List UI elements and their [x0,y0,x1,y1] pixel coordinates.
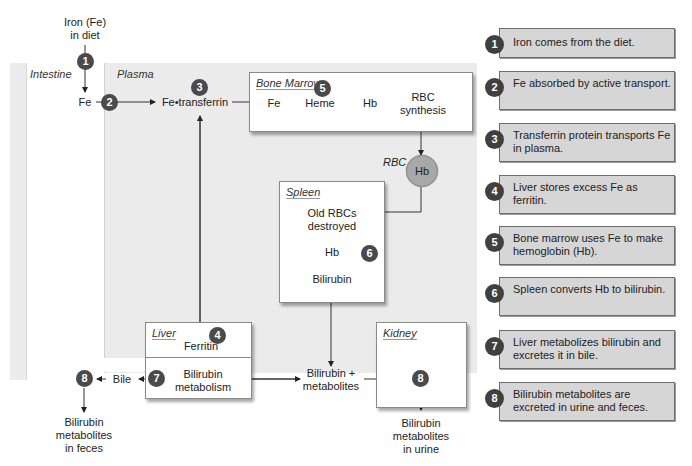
liver-ferritin: Ferritin [171,340,231,353]
legend-item-3: 3 Transferrin protein transports Fe in p… [499,123,675,163]
liver-divider [146,357,251,358]
spleen-step-old-rbcs: Old RBCs destroyed [290,207,374,233]
spleen-step-hb: Hb [322,246,342,259]
rbc-hb-label: Hb [407,165,437,178]
legend-text-6: Spleen converts Hb to bilirubin. [513,283,671,296]
legend-text-2: Fe absorbed by active transport. [513,77,671,90]
legend-badge-3: 3 [485,130,504,149]
legend-item-4: 4 Liver stores excess Fe as ferritin. [499,175,675,215]
liver-title: Liver [152,327,176,340]
rbc-label: RBC [383,156,406,168]
step-badge-8-feces: 8 [76,370,93,387]
kidney-title: Kidney [383,327,417,340]
fe-transferrin-node: Fe•transferrin [157,96,233,109]
rbc-hb-circle: Hb [406,155,438,187]
legend-item-6: 6 Spleen converts Hb to bilirubin. [499,277,675,317]
spleen-box: Spleen Old RBCs destroyed Hb Bilirubin 6 [279,181,385,303]
spleen-title: Spleen [286,186,320,199]
step-badge-5: 5 [314,80,331,97]
bone-marrow-step-heme: Heme [300,97,340,110]
legend-item-2: 2 Fe absorbed by active transport. [499,71,675,111]
bone-marrow-step-rbc-synthesis: RBC synthesis [397,91,449,117]
kidney-box: Kidney [376,322,467,408]
legend-badge-1: 1 [485,35,504,54]
legend-badge-4: 4 [485,182,504,201]
legend-item-7: 7 Liver metabolizes bilirubin and excret… [499,330,675,370]
legend-badge-8: 8 [485,389,504,408]
legend-badge-5: 5 [485,233,504,252]
legend-item-8: 8 Bilirubin metabolites are excreted in … [499,382,675,422]
legend-text-5: Bone marrow uses Fe to make hemoglobin (… [513,232,671,258]
fe-intestine-node: Fe [75,96,95,109]
legend-item-5: 5 Bone marrow uses Fe to make hemoglobin… [499,226,675,266]
bone-marrow-box: Bone Marrow 5 Fe Heme Hb RBC synthesis [249,72,473,132]
liver-bilirubin-metabolism: Bilirubin metabolism [168,368,238,394]
legend-text-1: Iron comes from the diet. [513,36,671,49]
legend-text-3: Transferrin protein transports Fe in pla… [513,129,671,155]
bilirubin-metabolites-node: Bilirubin + metabolites [298,367,364,393]
step-badge-2: 2 [101,94,118,111]
legend-text-4: Liver stores excess Fe as ferritin. [513,181,671,207]
step-badge-1: 1 [77,53,94,70]
step-badge-3: 3 [191,79,208,96]
legend-badge-6: 6 [485,284,504,303]
bone-marrow-step-fe: Fe [267,97,281,110]
step-badge-7: 7 [148,370,165,387]
step-badge-8-kidney: 8 [412,370,429,387]
urine-output-label: Bilirubin metabolites in urine [386,417,456,456]
step-badge-6: 6 [361,245,378,262]
bone-marrow-title: Bone Marrow [256,77,321,90]
bile-node: Bile [108,373,136,386]
legend-badge-2: 2 [485,78,504,97]
legend-text-7: Liver metabolizes bilirubin and excretes… [513,336,671,362]
legend-item-1: 1 Iron comes from the diet. [499,28,675,58]
feces-output-label: Bilirubin metabolites in feces [50,416,118,455]
liver-box: Liver 4 Ferritin Bilirubin metabolism [145,322,252,399]
bone-marrow-step-hb: Hb [360,97,380,110]
legend-text-8: Bilirubin metabolites are excreted in ur… [513,388,671,414]
spleen-step-bilirubin: Bilirubin [302,273,362,286]
legend-badge-7: 7 [485,337,504,356]
